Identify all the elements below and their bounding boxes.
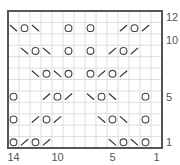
k2tog-symbol xyxy=(131,48,138,54)
k2tog-symbol xyxy=(21,139,28,145)
row-labels: 121051 xyxy=(166,11,178,149)
yarn-over-symbol xyxy=(98,93,105,100)
yarn-over-symbol xyxy=(21,25,28,32)
ssk-symbol xyxy=(54,71,61,77)
yarn-over-symbol xyxy=(131,25,138,32)
ssk-symbol xyxy=(98,117,105,123)
yarn-over-symbol xyxy=(109,116,116,123)
k2tog-symbol xyxy=(142,25,149,31)
column-label: 1 xyxy=(153,151,159,163)
ssk-symbol xyxy=(21,48,28,54)
column-label: 5 xyxy=(109,151,115,163)
column-label: 14 xyxy=(7,151,19,163)
column-label: 10 xyxy=(51,151,63,163)
yarn-over-symbol xyxy=(142,116,149,123)
knitting-chart: 141051 121051 xyxy=(0,0,180,165)
k2tog-symbol xyxy=(54,117,61,123)
yarn-over-symbol xyxy=(43,70,50,77)
ssk-symbol xyxy=(131,139,138,145)
k2tog-symbol xyxy=(120,71,127,77)
yarn-over-symbol xyxy=(32,48,39,55)
ssk-symbol xyxy=(43,48,50,54)
yarn-over-symbol xyxy=(142,139,149,146)
ssk-symbol xyxy=(120,117,127,123)
ssk-symbol xyxy=(32,71,39,77)
k2tog-symbol xyxy=(32,117,39,123)
ssk-symbol xyxy=(109,139,116,145)
chart-symbols xyxy=(10,25,149,146)
row-label: 1 xyxy=(166,136,172,148)
yarn-over-symbol xyxy=(120,48,127,55)
k2tog-symbol xyxy=(43,94,50,100)
k2tog-symbol xyxy=(43,139,50,145)
yarn-over-symbol xyxy=(87,48,94,55)
yarn-over-symbol xyxy=(120,139,127,146)
column-labels: 141051 xyxy=(7,151,159,163)
ssk-symbol xyxy=(10,25,17,31)
ssk-symbol xyxy=(87,94,94,100)
yarn-over-symbol xyxy=(10,139,17,146)
grid-lines xyxy=(8,11,162,148)
k2tog-symbol xyxy=(98,71,105,77)
row-label: 12 xyxy=(166,11,178,23)
yarn-over-symbol xyxy=(54,93,61,100)
k2tog-symbol xyxy=(65,94,72,100)
yarn-over-symbol xyxy=(32,139,39,146)
yarn-over-symbol xyxy=(142,93,149,100)
ssk-symbol xyxy=(32,25,39,31)
yarn-over-symbol xyxy=(65,25,72,32)
yarn-over-symbol xyxy=(87,70,94,77)
row-label: 5 xyxy=(166,91,172,103)
yarn-over-symbol xyxy=(65,48,72,55)
yarn-over-symbol xyxy=(65,70,72,77)
row-label: 10 xyxy=(166,34,178,46)
yarn-over-symbol xyxy=(109,70,116,77)
yarn-over-symbol xyxy=(10,116,17,123)
yarn-over-symbol xyxy=(10,93,17,100)
k2tog-symbol xyxy=(109,48,116,54)
ssk-symbol xyxy=(109,94,116,100)
yarn-over-symbol xyxy=(87,25,94,32)
yarn-over-symbol xyxy=(43,116,50,123)
k2tog-symbol xyxy=(120,25,127,31)
